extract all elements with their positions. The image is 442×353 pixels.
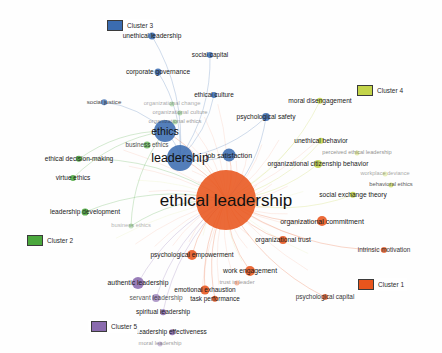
network-node[interactable] — [70, 175, 76, 181]
legend-label: Cluster 1 — [378, 281, 404, 288]
legend-cluster-5[interactable]: Cluster 5 — [88, 320, 140, 333]
network-node[interactable] — [314, 160, 322, 168]
network-node[interactable] — [318, 138, 324, 144]
network-node[interactable] — [317, 98, 323, 104]
network-node[interactable] — [381, 247, 387, 253]
legend-label: Cluster 3 — [127, 22, 153, 29]
network-node[interactable] — [129, 224, 134, 229]
network-node[interactable] — [169, 329, 175, 335]
network-node[interactable] — [160, 309, 166, 315]
network-node[interactable] — [158, 342, 163, 347]
network-node[interactable] — [132, 277, 144, 289]
network-node[interactable] — [82, 209, 89, 216]
network-node[interactable] — [212, 296, 218, 302]
network-node[interactable] — [155, 69, 162, 76]
legend-swatch-icon — [358, 279, 374, 290]
network-node[interactable] — [383, 172, 388, 177]
network-node[interactable] — [279, 236, 287, 244]
network-node[interactable] — [388, 182, 393, 187]
network-node[interactable] — [177, 110, 182, 115]
legend-cluster-3[interactable]: Cluster 3 — [104, 19, 156, 32]
node-layer: ethical leadershipleadershipethicsjob sa… — [0, 0, 442, 353]
network-node[interactable] — [322, 294, 328, 300]
network-node[interactable] — [234, 280, 239, 285]
network-node[interactable] — [223, 149, 236, 162]
network-node[interactable] — [245, 266, 255, 276]
legend-swatch-icon — [91, 321, 107, 332]
legend-cluster-4[interactable]: Cluster 4 — [354, 84, 406, 97]
network-node[interactable] — [167, 145, 193, 171]
legend-swatch-icon — [107, 20, 123, 31]
legend-label: Cluster 5 — [111, 323, 137, 330]
network-node[interactable] — [101, 99, 107, 105]
network-node[interactable] — [169, 101, 174, 106]
legend-swatch-icon — [27, 235, 43, 246]
network-node[interactable] — [144, 142, 151, 149]
network-node[interactable] — [317, 216, 327, 226]
network-node[interactable] — [149, 33, 156, 40]
network-node[interactable] — [76, 156, 82, 162]
network-node[interactable] — [350, 192, 356, 198]
legend-label: Cluster 4 — [377, 87, 403, 94]
legend-cluster-1[interactable]: Cluster 1 — [355, 278, 407, 291]
network-node[interactable] — [201, 286, 210, 295]
legend-cluster-2[interactable]: Cluster 2 — [24, 234, 76, 247]
network-node[interactable] — [187, 250, 197, 260]
network-node[interactable] — [172, 119, 177, 124]
network-node[interactable] — [196, 170, 256, 230]
network-node[interactable] — [211, 92, 217, 98]
network-node[interactable] — [152, 294, 160, 302]
network-node[interactable] — [207, 52, 213, 58]
legend-swatch-icon — [357, 85, 373, 96]
network-node[interactable] — [355, 151, 360, 156]
network-node[interactable] — [262, 113, 270, 121]
network-visualization: ethical leadershipleadershipethicsjob sa… — [0, 0, 442, 353]
legend-label: Cluster 2 — [47, 237, 73, 244]
